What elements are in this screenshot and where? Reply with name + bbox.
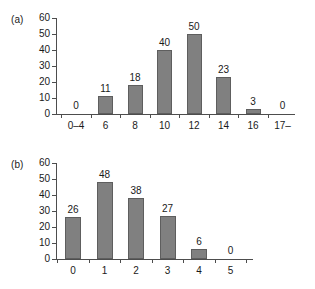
bar-slot: 2314: [209, 18, 239, 114]
x-tick-b-6: [246, 259, 247, 263]
y-tick-label-b-50: 50: [39, 174, 50, 184]
bar: [128, 85, 143, 114]
y-tick-a-50: [52, 34, 56, 35]
bar: [191, 249, 207, 259]
y-tick-a-0: [52, 114, 56, 115]
y-tick-b-0: [52, 259, 56, 260]
x-tick-b-2: [120, 259, 121, 263]
bar: [65, 217, 81, 259]
y-tick-label-a-10: 10: [39, 93, 50, 103]
x-tick-label: 16: [247, 120, 258, 131]
bar: [128, 198, 144, 259]
x-tick-label: 0–4: [68, 120, 85, 131]
x-tick-b-3: [152, 259, 153, 263]
y-tick-a-10: [52, 98, 56, 99]
bar-value-label: 0: [280, 100, 286, 111]
bar-value-label: 26: [67, 204, 78, 215]
bar-value-label: 0: [73, 100, 79, 111]
bar-value-label: 50: [188, 21, 199, 32]
y-tick-b-60: [52, 163, 56, 164]
x-tick-b-5: [215, 259, 216, 263]
y-tick-label-b-10: 10: [39, 238, 50, 248]
y-tick-b-30: [52, 211, 56, 212]
bar-slot: 316: [238, 18, 268, 114]
bar-slot: 382: [120, 163, 152, 259]
y-tick-b-50: [52, 179, 56, 180]
x-tick-label: 5: [228, 265, 234, 276]
y-tick-label-a-30: 30: [39, 61, 50, 71]
x-tick-label: 2: [133, 265, 139, 276]
y-tick-b-40: [52, 195, 56, 196]
x-tick-a-7: [268, 114, 269, 118]
y-tick-label-b-40: 40: [39, 190, 50, 200]
y-tick-a-20: [52, 82, 56, 83]
y-tick-label-a-40: 40: [39, 45, 50, 55]
x-tick-b-4: [183, 259, 184, 263]
bar-slot: 017–: [268, 18, 298, 114]
bar-slot: 116: [91, 18, 121, 114]
x-tick-a-3: [150, 114, 151, 118]
y-axis-line-a: [56, 18, 57, 115]
x-tick-label: 10: [159, 120, 170, 131]
x-tick-label: 4: [196, 265, 202, 276]
bar-value-label: 38: [130, 185, 141, 196]
bar-slot: 5012: [179, 18, 209, 114]
x-axis-line-a: [56, 114, 295, 115]
y-tick-label-b-20: 20: [39, 222, 50, 232]
bar: [97, 182, 113, 259]
bar: [216, 77, 231, 114]
bar-value-label: 0: [228, 245, 234, 256]
plot-area-b: 01020304050602604813822736405: [57, 163, 253, 259]
bar: [246, 109, 261, 114]
y-tick-b-20: [52, 227, 56, 228]
bar-slot: 260: [57, 163, 89, 259]
y-tick-label-b-60: 60: [39, 158, 50, 168]
bar-slot: 00–4: [61, 18, 91, 114]
bar-value-label: 48: [99, 169, 110, 180]
bar: [157, 50, 172, 114]
panel-label-a: (a): [11, 14, 24, 26]
y-tick-label-a-20: 20: [39, 77, 50, 87]
bar: [98, 96, 113, 114]
bar: [160, 216, 176, 259]
y-tick-a-30: [52, 66, 56, 67]
x-tick-label: 17–: [274, 120, 291, 131]
bar-value-label: 18: [129, 72, 140, 83]
y-tick-label-a-0: 0: [44, 109, 50, 119]
bar-slot: 481: [89, 163, 121, 259]
bar-slot: 188: [120, 18, 150, 114]
y-tick-label-b-30: 30: [39, 206, 50, 216]
bar-value-label: 3: [250, 96, 256, 107]
x-tick-a-1: [91, 114, 92, 118]
bar-slot: 64: [183, 163, 215, 259]
x-tick-label: 3: [165, 265, 171, 276]
y-tick-label-a-60: 60: [39, 13, 50, 23]
bar-slot: 05: [215, 163, 247, 259]
x-axis-line-b: [56, 259, 253, 260]
plot-area-a: 010203040506000–411618840105012231431601…: [57, 18, 295, 114]
x-tick-label: 1: [102, 265, 108, 276]
x-tick-a-2: [120, 114, 121, 118]
y-tick-a-40: [52, 50, 56, 51]
panel-label-b: (b): [11, 159, 24, 171]
x-tick-label: 14: [218, 120, 229, 131]
y-tick-label-b-0: 0: [44, 254, 50, 264]
bar-value-label: 27: [162, 203, 173, 214]
x-tick-a-4: [179, 114, 180, 118]
x-tick-label: 0: [70, 265, 76, 276]
chart-panel-b: (b) 01020304050602604813822736405: [0, 145, 315, 289]
chart-panel-a: (a) 010203040506000–41161884010501223143…: [0, 0, 315, 144]
x-tick-b-0: [57, 259, 58, 263]
bar-value-label: 6: [196, 236, 202, 247]
x-tick-label: 8: [132, 120, 138, 131]
bar-value-label: 23: [218, 64, 229, 75]
y-tick-label-a-50: 50: [39, 29, 50, 39]
bar-slot: 273: [152, 163, 184, 259]
bar-value-label: 11: [100, 83, 110, 94]
x-tick-a-0: [61, 114, 62, 118]
bar-value-label: 40: [159, 37, 170, 48]
x-tick-label: 12: [188, 120, 199, 131]
bar: [187, 34, 202, 114]
x-tick-b-1: [89, 259, 90, 263]
bar-chart-figure: (a) 010203040506000–41161884010501223143…: [0, 0, 315, 289]
